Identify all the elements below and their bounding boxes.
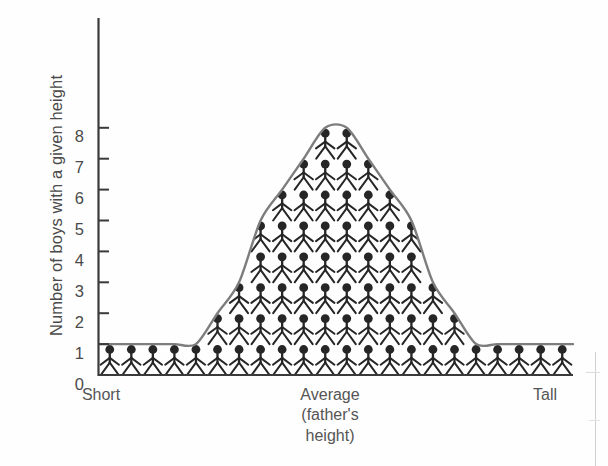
stick-figure xyxy=(338,222,356,252)
stick-figure xyxy=(338,283,356,313)
stick-figure-head xyxy=(342,314,351,323)
x-label-average-line1: Average xyxy=(250,385,410,405)
stick-figure xyxy=(230,345,248,375)
stick-figure-head xyxy=(235,345,244,354)
stick-figure-head xyxy=(321,252,330,261)
stick-figure-head xyxy=(364,252,373,261)
stick-figure-head xyxy=(321,283,330,292)
stick-figure-head xyxy=(342,283,351,292)
stick-figure-head xyxy=(429,314,438,323)
stick-figure-head xyxy=(278,283,287,292)
stick-figure-head xyxy=(342,252,351,261)
stick-figure-head xyxy=(342,222,351,231)
stick-figure xyxy=(359,314,377,344)
stick-figure-field xyxy=(101,129,572,375)
stick-figure-head xyxy=(321,345,330,354)
stick-figure xyxy=(338,345,356,375)
stick-figure-head xyxy=(385,222,394,231)
stick-figure xyxy=(165,345,183,375)
stick-figure-head xyxy=(407,345,416,354)
stick-figure-head xyxy=(493,345,502,354)
stick-figure xyxy=(381,283,399,313)
stick-figure-head xyxy=(278,345,287,354)
chart-root: Number of boys with a given height 8 7 6… xyxy=(0,0,608,466)
stick-figure xyxy=(251,283,269,313)
stick-figure-head xyxy=(235,314,244,323)
stick-figure-head xyxy=(321,222,330,231)
stick-figure xyxy=(294,222,312,252)
stick-figure xyxy=(445,345,463,375)
stick-figure xyxy=(294,252,312,282)
stick-figure xyxy=(424,283,442,313)
stick-figure xyxy=(251,345,269,375)
stick-figure xyxy=(402,345,420,375)
stick-figure-head xyxy=(299,252,308,261)
stick-figure-head xyxy=(385,283,394,292)
stick-figure-head xyxy=(170,345,179,354)
stick-figure xyxy=(381,314,399,344)
stick-figure xyxy=(273,191,291,221)
stick-figure xyxy=(445,314,463,344)
stick-figure-head xyxy=(278,222,287,231)
stick-figure xyxy=(359,345,377,375)
stick-figure xyxy=(381,345,399,375)
stick-figure-head xyxy=(256,283,265,292)
stick-figure-head xyxy=(364,283,373,292)
stick-figure xyxy=(338,160,356,190)
stick-figure xyxy=(273,283,291,313)
stick-figure-head xyxy=(342,345,351,354)
stick-figure xyxy=(510,345,528,375)
stick-figure-head xyxy=(364,222,373,231)
stick-figure-head xyxy=(385,252,394,261)
stick-figure-head xyxy=(450,345,459,354)
stick-figure xyxy=(402,252,420,282)
stick-figure-head xyxy=(278,252,287,261)
stick-figure xyxy=(294,314,312,344)
stick-figure-head xyxy=(321,160,330,169)
stick-figure xyxy=(273,222,291,252)
stick-figure xyxy=(294,345,312,375)
stick-figure-head xyxy=(385,345,394,354)
stick-figure xyxy=(316,345,334,375)
stick-figure xyxy=(338,191,356,221)
stick-figure xyxy=(101,345,119,375)
stick-figure-head xyxy=(321,314,330,323)
stick-figure-head xyxy=(299,314,308,323)
stick-figure-head xyxy=(127,345,136,354)
stick-figure-head xyxy=(407,252,416,261)
stick-figure xyxy=(316,160,334,190)
stick-figure xyxy=(187,345,205,375)
x-label-tall: Tall xyxy=(490,385,600,405)
stick-figure xyxy=(273,314,291,344)
stick-figure-head xyxy=(321,191,330,200)
stick-figure xyxy=(359,222,377,252)
stick-figure-head xyxy=(407,283,416,292)
stick-figure-head xyxy=(364,191,373,200)
stick-figure-head xyxy=(213,345,222,354)
stick-figure xyxy=(294,160,312,190)
stick-figure xyxy=(273,345,291,375)
stick-figure xyxy=(338,314,356,344)
stick-figure xyxy=(359,191,377,221)
stick-figure-head xyxy=(299,345,308,354)
stick-figure xyxy=(122,345,140,375)
stick-figure xyxy=(424,345,442,375)
stick-figure xyxy=(359,252,377,282)
stick-figure-head xyxy=(407,314,416,323)
stick-figure xyxy=(381,252,399,282)
stick-figure xyxy=(294,191,312,221)
stick-figure xyxy=(359,283,377,313)
stick-figure xyxy=(230,283,248,313)
stick-figure xyxy=(338,252,356,282)
x-label-average-line2: (father's xyxy=(250,405,410,425)
stick-figure-head xyxy=(385,314,394,323)
stick-figure-head xyxy=(558,345,567,354)
stick-figure xyxy=(144,345,162,375)
stick-figure xyxy=(294,283,312,313)
page-edge-artifact-mark-1 xyxy=(586,372,600,373)
stick-figure xyxy=(553,345,571,375)
stick-figure-head xyxy=(148,345,157,354)
stick-figure-head xyxy=(256,252,265,261)
stick-figure xyxy=(251,314,269,344)
stick-figure xyxy=(402,283,420,313)
